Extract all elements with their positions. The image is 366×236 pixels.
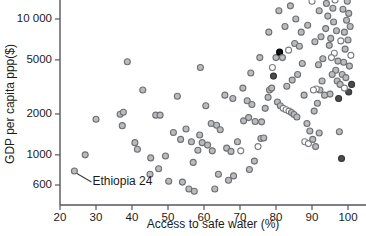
- data-point: [140, 87, 146, 93]
- data-point: [195, 147, 201, 153]
- data-point: [124, 59, 130, 65]
- data-point: [296, 43, 302, 49]
- data-point: [205, 142, 211, 148]
- data-point: [157, 112, 163, 118]
- data-point: [249, 101, 255, 107]
- data-point: [183, 126, 189, 132]
- y-axis-title: GDP per capita ppp($): [3, 44, 17, 164]
- x-tick-label: 40: [126, 211, 139, 223]
- data-point: [322, 92, 328, 98]
- data-point: [228, 148, 234, 154]
- data-point: [174, 93, 180, 99]
- data-point: [331, 19, 337, 25]
- data-point: [315, 62, 321, 68]
- data-point: [335, 58, 341, 64]
- data-point: [270, 73, 276, 79]
- data-point: [148, 155, 154, 161]
- data-point: [191, 188, 197, 194]
- data-point: [299, 61, 305, 67]
- chart-canvas: 60010002000500010 000 203040506070809010…: [0, 0, 366, 236]
- data-point: [348, 52, 354, 58]
- data-point: [134, 146, 140, 152]
- data-point: [325, 13, 331, 19]
- data-point: [82, 152, 88, 158]
- x-tick-label: 30: [90, 211, 103, 223]
- data-point: [341, 59, 347, 65]
- data-point: [120, 109, 126, 115]
- data-point: [342, 46, 348, 52]
- data-point: [328, 35, 334, 41]
- data-point: [305, 22, 311, 28]
- data-point: [273, 55, 279, 61]
- data-point: [188, 139, 194, 145]
- data-point: [190, 159, 196, 165]
- annotation-label: Ethiopia 24: [92, 174, 152, 188]
- data-point: [178, 136, 184, 142]
- data-point: [323, 26, 329, 32]
- data-point: [316, 130, 322, 136]
- x-axis-title: Access to safe water (%): [147, 217, 280, 231]
- data-point: [156, 166, 162, 172]
- data-point: [269, 64, 275, 70]
- data-point: [320, 56, 326, 62]
- data-point: [119, 123, 125, 129]
- data-point: [346, 63, 352, 69]
- data-point: [307, 128, 313, 134]
- data-point: [231, 173, 237, 179]
- data-point: [289, 77, 295, 83]
- data-point: [339, 156, 345, 162]
- data-point: [279, 55, 285, 61]
- data-point: [311, 108, 317, 114]
- data-point: [345, 37, 351, 43]
- data-point: [323, 1, 329, 7]
- data-point: [298, 29, 304, 35]
- data-point: [222, 92, 228, 98]
- data-point: [266, 29, 272, 35]
- data-point: [170, 130, 176, 136]
- data-point: [282, 24, 288, 30]
- data-point: [209, 148, 215, 154]
- x-tick-label: 20: [54, 211, 67, 223]
- data-point: [286, 47, 292, 53]
- data-point: [197, 64, 203, 70]
- data-point: [252, 119, 258, 125]
- data-point: [316, 8, 322, 14]
- y-tick-label: 1000: [26, 148, 52, 160]
- data-point: [349, 81, 355, 87]
- data-point: [71, 168, 77, 174]
- y-tick-label: 10 000: [17, 12, 52, 24]
- data-point: [93, 116, 99, 122]
- y-tick-label: 600: [33, 178, 52, 190]
- data-point: [162, 153, 168, 159]
- data-point: [343, 75, 349, 81]
- data-point: [304, 121, 310, 127]
- data-point: [287, 3, 293, 9]
- data-point: [215, 171, 221, 177]
- data-point: [212, 186, 218, 192]
- data-point: [276, 8, 282, 14]
- data-point: [234, 139, 240, 145]
- data-point: [246, 167, 252, 173]
- data-point: [217, 127, 223, 133]
- data-point: [225, 177, 231, 183]
- data-point: [340, 6, 346, 12]
- data-point: [257, 55, 263, 61]
- data-point: [166, 178, 172, 184]
- data-point: [312, 39, 318, 45]
- data-point: [310, 87, 316, 93]
- data-point: [230, 95, 236, 101]
- data-point: [332, 0, 338, 3]
- data-point: [313, 144, 319, 150]
- data-point: [344, 17, 350, 23]
- y-tick-label: 5000: [26, 53, 52, 65]
- data-point: [248, 70, 254, 76]
- data-point: [318, 34, 324, 40]
- chart-background: [0, 0, 366, 236]
- data-point: [295, 72, 301, 78]
- data-point: [240, 85, 246, 91]
- data-point: [336, 129, 342, 135]
- data-point: [203, 103, 209, 109]
- data-point: [259, 119, 265, 125]
- data-point: [301, 92, 307, 98]
- data-point: [293, 16, 299, 22]
